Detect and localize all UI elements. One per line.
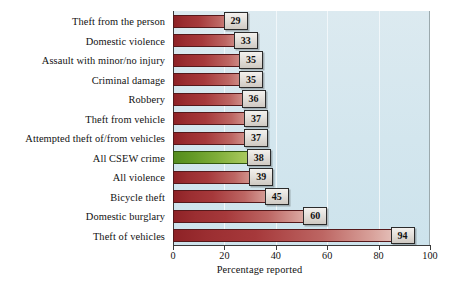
x-tick-label: 80 (359, 250, 399, 261)
bar-value-label: 37 (244, 129, 268, 147)
category-label: Attempted theft of/from vehicles (25, 128, 165, 149)
bar-value-label: 60 (303, 207, 327, 225)
x-axis-title-text: Percentage reported (217, 264, 303, 275)
x-tick-label: 20 (204, 250, 244, 261)
bar-value-label: 94 (391, 227, 415, 245)
bar-value-label: 33 (234, 32, 258, 50)
bar-row: 33 (173, 31, 430, 52)
x-tick-label: 40 (256, 250, 296, 261)
category-label: Domestic burglary (86, 206, 165, 227)
bar-value-label: 39 (249, 168, 273, 186)
bar-value-label: 35 (239, 51, 263, 69)
category-label: Criminal damage (92, 70, 165, 91)
bar-row: 36 (173, 89, 430, 110)
bar-row: 45 (173, 187, 430, 208)
x-tick-label: 100 (410, 250, 450, 261)
bar-value-label: 45 (265, 188, 289, 206)
bar-row: 39 (173, 167, 430, 188)
bar-value-label: 37 (244, 110, 268, 128)
bar-row: 35 (173, 70, 430, 91)
category-label: All CSEW crime (93, 148, 165, 169)
category-label: Theft of vehicles (93, 226, 165, 247)
x-tick-label: 0 (153, 250, 193, 261)
category-label: Theft from vehicle (85, 109, 165, 130)
x-tick-label: 60 (307, 250, 347, 261)
category-label: All violence (113, 167, 165, 188)
bar-row: 29 (173, 11, 430, 32)
category-label: Domestic violence (86, 31, 165, 52)
x-axis-title: Percentage reported (0, 264, 461, 275)
bar-row: 38 (173, 148, 430, 169)
bar-row: 35 (173, 50, 430, 71)
bar-value-label: 35 (239, 71, 263, 89)
category-label: Robbery (129, 89, 165, 110)
bar-row: 94 (173, 226, 430, 247)
bar-value-label: 36 (242, 90, 266, 108)
bar-chart: Theft from the personDomestic violenceAs… (0, 0, 461, 282)
bar (173, 229, 415, 242)
category-label: Theft from the person (72, 11, 165, 32)
category-labels: Theft from the personDomestic violenceAs… (0, 11, 169, 245)
bar-value-label: 38 (247, 149, 271, 167)
category-label: Assault with minor/no injury (42, 50, 165, 71)
bar-row: 37 (173, 128, 430, 149)
category-label: Bicycle theft (110, 187, 165, 208)
bar-value-label: 29 (224, 12, 248, 30)
bar-row: 37 (173, 109, 430, 130)
bar-row: 60 (173, 206, 430, 227)
